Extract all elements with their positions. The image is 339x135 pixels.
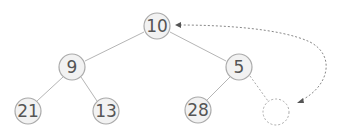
tree-svg: 10 9 5 21 13 28 — [0, 0, 339, 135]
edge-9-21 — [37, 77, 63, 101]
node-label: 10 — [146, 16, 168, 36]
tree-diagram: 10 9 5 21 13 28 — [0, 0, 339, 135]
node-28: 28 — [185, 97, 211, 123]
node-label: 5 — [234, 57, 245, 77]
edge-9-13 — [81, 77, 97, 101]
node-13: 13 — [93, 98, 119, 124]
edge-10-9 — [85, 32, 144, 61]
edge-5-28 — [207, 77, 230, 100]
edge-5-empty — [250, 76, 268, 101]
node-9: 9 — [59, 54, 85, 80]
node-label: 28 — [187, 100, 209, 120]
node-10: 10 — [144, 13, 170, 39]
empty-node-slot — [263, 99, 289, 125]
arrowhead-bottom — [297, 98, 304, 103]
node-label: 13 — [95, 101, 117, 121]
edge-10-5 — [170, 32, 226, 61]
swap-arrow — [178, 25, 326, 100]
node-label: 9 — [67, 57, 78, 77]
node-21: 21 — [15, 98, 41, 124]
node-5: 5 — [226, 54, 252, 80]
node-label: 21 — [17, 101, 39, 121]
